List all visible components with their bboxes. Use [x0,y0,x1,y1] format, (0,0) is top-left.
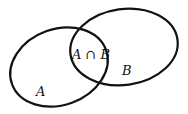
intersection-label: A ∩ B [71,47,110,62]
set-a-label: A [35,84,45,99]
set-b-label: B [121,63,132,78]
set-a-ellipse [0,14,119,114]
venn-diagram: A ∩ B B A [0,0,188,114]
